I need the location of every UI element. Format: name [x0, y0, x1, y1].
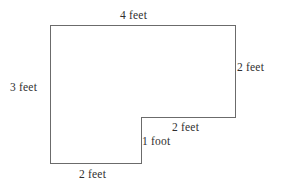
dimension-label-bottom: 2 feet: [79, 168, 106, 181]
figure-canvas: 4 feet 3 feet 2 feet 2 feet 1 foot 2 fee…: [0, 0, 284, 187]
dimension-label-left: 3 feet: [10, 81, 37, 94]
dimension-label-right: 2 feet: [237, 61, 264, 74]
dimension-label-top: 4 feet: [120, 9, 147, 22]
dimension-label-inner-vertical: 1 foot: [142, 135, 170, 148]
dimension-label-inner-horizontal: 2 feet: [172, 121, 199, 134]
l-shape-diagram: [0, 0, 284, 187]
